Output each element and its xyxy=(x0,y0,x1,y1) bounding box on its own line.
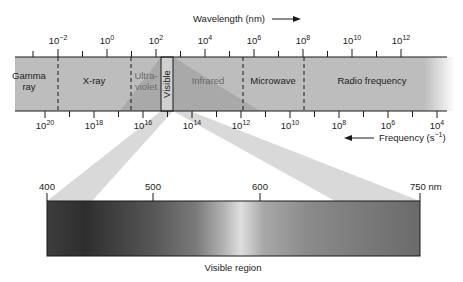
wavelength-tick-label: 102 xyxy=(149,34,164,46)
wavelength-axis-label: Wavelength (nm) xyxy=(193,13,265,24)
region-label-visible: Visible xyxy=(161,70,172,98)
frequency-arrowhead-icon xyxy=(344,135,352,141)
region-label-ultraviolet: Ultra-violet xyxy=(134,70,157,92)
wavelength-tick-label: 10−2 xyxy=(49,34,68,46)
wavelength-tick-label: 100 xyxy=(100,34,115,46)
visible-tick-label: 750 nm xyxy=(410,181,442,192)
wavelength-tick-label: 108 xyxy=(296,34,311,46)
visible-region-label: Visible region xyxy=(205,262,262,273)
frequency-tick-label: 1018 xyxy=(85,119,103,131)
electromagnetic-spectrum-diagram: 10−210010210410610810101012 102010181016… xyxy=(0,0,463,282)
frequency-tick-label: 108 xyxy=(332,119,347,131)
wavelength-tick-label: 1012 xyxy=(392,34,410,46)
frequency-tick-label: 104 xyxy=(430,119,445,131)
frequency-tick-label: 1014 xyxy=(183,119,201,131)
frequency-tick-label: 1012 xyxy=(232,119,250,131)
wavelength-tick-labels: 10−210010210410610810101012 xyxy=(49,34,411,46)
visible-tick-label: 400 xyxy=(39,181,55,192)
frequency-tick-label: 1010 xyxy=(281,119,299,131)
wavelength-arrowhead-icon xyxy=(293,16,301,22)
region-label-radio-frequency: Radio frequency xyxy=(337,75,406,86)
frequency-ticks xyxy=(45,111,437,118)
visible-region-bar xyxy=(47,201,420,256)
frequency-axis-label: Frequency (s−1) xyxy=(379,131,446,143)
frequency-tick-labels: 102010181016101410121010108106104 xyxy=(36,119,445,131)
visible-tick-label: 500 xyxy=(145,181,161,192)
wavelength-ticks xyxy=(33,49,401,57)
frequency-tick-label: 1020 xyxy=(36,119,54,131)
frequency-tick-label: 106 xyxy=(381,119,396,131)
region-label-microwave: Microwave xyxy=(250,75,295,86)
wavelength-tick-label: 104 xyxy=(198,34,213,46)
wavelength-tick-label: 1010 xyxy=(343,34,361,46)
region-label-x-ray: X-ray xyxy=(83,75,106,86)
region-label-infrared: Infrared xyxy=(192,75,225,86)
visible-tick-label: 600 xyxy=(252,181,268,192)
wavelength-tick-label: 106 xyxy=(247,34,262,46)
